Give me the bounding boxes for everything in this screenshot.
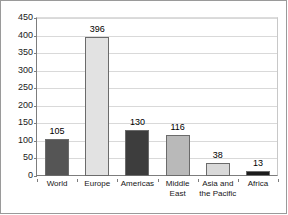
y-axis-tick-label: 150	[18, 118, 33, 127]
x-axis-tick-mark	[37, 179, 38, 182]
x-axis-tick-mark	[117, 179, 118, 182]
x-axis-tick-label: Americas	[117, 179, 157, 209]
y-axis-tick-label: 250	[18, 83, 33, 92]
x-axis-tick-mark	[158, 179, 159, 182]
bar-group: 116	[158, 18, 198, 176]
y-axis-tick-label: 50	[23, 153, 33, 162]
y-axis-tick-label: 350	[18, 48, 33, 57]
bar[interactable]	[166, 135, 190, 176]
bar[interactable]	[246, 171, 270, 176]
bar[interactable]	[85, 37, 109, 176]
y-axis-tick-label: 400	[18, 31, 33, 40]
bar-group: 396	[77, 18, 117, 176]
bar-group: 38	[198, 18, 238, 176]
y-axis-tick-label: 300	[18, 66, 33, 75]
bar-value-label: 105	[37, 126, 77, 136]
bar-group: 13	[238, 18, 278, 176]
y-axis-tick-label: 0	[28, 171, 33, 180]
x-axis-tick-mark	[198, 179, 199, 182]
x-axis-tick-label: Africa	[238, 179, 278, 209]
x-axis-tick-mark	[238, 179, 239, 182]
x-axis-tick-label: World	[37, 179, 77, 209]
bar-group: 105	[37, 18, 77, 176]
y-axis-tick-mark	[34, 176, 37, 177]
bar-group: 130	[117, 18, 157, 176]
y-axis-tick-label: 100	[18, 136, 33, 145]
bar-value-label: 396	[77, 24, 117, 34]
x-axis-tick-mark	[77, 179, 78, 182]
chart-area: 450400350300250200150100500 105396130116…	[6, 5, 283, 210]
x-axis-tick-label: Europe	[77, 179, 117, 209]
bar[interactable]	[45, 139, 69, 176]
x-axis-tick-label: Asia and the Pacific	[198, 179, 238, 209]
bar-value-label: 13	[238, 158, 278, 168]
bar-series: 1053961301163813	[37, 18, 278, 176]
bar-value-label: 130	[117, 117, 157, 127]
bar[interactable]	[206, 163, 230, 176]
x-axis-labels: WorldEuropeAmericasMiddle EastAsia and t…	[37, 179, 278, 209]
bar-value-label: 116	[158, 122, 198, 132]
bar[interactable]	[125, 130, 149, 176]
y-axis-tick-label: 200	[18, 101, 33, 110]
chart-frame: 450400350300250200150100500 105396130116…	[0, 0, 287, 214]
bar-value-label: 38	[198, 150, 238, 160]
y-axis-tick-label: 450	[18, 13, 33, 22]
x-axis-tick-label: Middle East	[158, 179, 198, 209]
y-axis-labels: 450400350300250200150100500	[6, 17, 33, 177]
x-axis-tick-mark	[278, 179, 279, 182]
